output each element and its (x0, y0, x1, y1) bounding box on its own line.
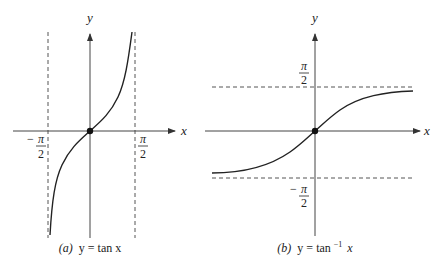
right-two: 2 (140, 147, 146, 161)
bottom-pi: π (301, 182, 308, 196)
caption-a: (a) y = tan x (59, 241, 121, 255)
neg-sign: − (27, 132, 34, 146)
neg-sign: − (290, 182, 297, 196)
origin-point (312, 128, 318, 134)
origin-point (87, 128, 93, 134)
x-axis-label: x (180, 123, 187, 138)
left-two: 2 (38, 147, 44, 161)
caption-b: (b) y = tan −1 x (277, 236, 353, 255)
top-pi: π (301, 59, 308, 73)
y-axis-label: y (310, 10, 318, 25)
right-pi: π (140, 132, 147, 146)
x-axis-label: x (423, 123, 430, 138)
panel-tan: y x − π 2 π 2 (a) y = tan x (13, 10, 187, 255)
bottom-two: 2 (301, 196, 307, 210)
top-two: 2 (301, 73, 307, 87)
panel-arctan: y x π 2 − π 2 (b) y = tan −1 x (205, 10, 430, 255)
y-axis-label: y (85, 10, 93, 25)
left-pi: π (38, 132, 45, 146)
figure-canvas: y x − π 2 π 2 (a) y = tan x y x π 2 − π … (0, 0, 438, 268)
